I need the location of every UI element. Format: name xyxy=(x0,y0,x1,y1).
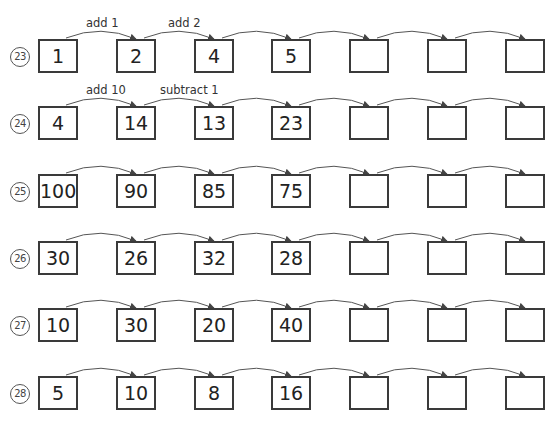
arrow-icon xyxy=(222,166,291,174)
answer-box[interactable] xyxy=(427,241,467,275)
answer-box[interactable] xyxy=(427,39,467,73)
arrow-icon xyxy=(222,368,291,376)
given-number-box: 23 xyxy=(271,106,311,140)
answer-box[interactable] xyxy=(427,174,467,208)
given-number-box: 20 xyxy=(194,308,234,342)
arrow-icon xyxy=(377,368,447,376)
question-number: 24 xyxy=(10,114,30,134)
answer-box[interactable] xyxy=(505,241,545,275)
arrow-icon xyxy=(222,98,291,106)
given-number-box: 32 xyxy=(194,241,234,275)
given-number-box: 75 xyxy=(271,174,311,208)
arrow-icon xyxy=(66,98,136,106)
arrow-icon xyxy=(299,300,369,308)
given-number-box: 90 xyxy=(116,174,156,208)
arrow-icon xyxy=(66,233,136,241)
step-label: add 10 xyxy=(86,83,126,97)
arrow-icon xyxy=(144,368,214,376)
answer-box[interactable] xyxy=(505,39,545,73)
step-label: add 1 xyxy=(86,16,119,30)
question-number: 23 xyxy=(10,47,30,67)
given-number-box: 8 xyxy=(194,376,234,410)
arrow-icon xyxy=(144,300,214,308)
arrow-icon xyxy=(455,368,525,376)
arrow-icon xyxy=(222,31,291,39)
arrow-icon xyxy=(377,166,447,174)
arrow-icon xyxy=(66,166,136,174)
given-number-box: 16 xyxy=(271,376,311,410)
answer-box[interactable] xyxy=(349,376,389,410)
given-number-box: 85 xyxy=(194,174,234,208)
answer-box[interactable] xyxy=(427,106,467,140)
arrow-icon xyxy=(144,98,214,106)
answer-box[interactable] xyxy=(505,308,545,342)
arrow-icon xyxy=(455,233,525,241)
given-number-box: 2 xyxy=(116,39,156,73)
problem-row-28: 28510816 xyxy=(0,359,554,424)
given-number-box: 14 xyxy=(116,106,156,140)
arrow-icon xyxy=(377,233,447,241)
given-number-box: 4 xyxy=(194,39,234,73)
given-number-box: 26 xyxy=(116,241,156,275)
answer-box[interactable] xyxy=(505,376,545,410)
given-number-box: 28 xyxy=(271,241,311,275)
answer-box[interactable] xyxy=(427,308,467,342)
given-number-box: 10 xyxy=(38,308,78,342)
answer-box[interactable] xyxy=(349,106,389,140)
given-number-box: 4 xyxy=(38,106,78,140)
problem-row-26: 2630263228 xyxy=(0,224,554,291)
answer-box[interactable] xyxy=(349,174,389,208)
given-number-box: 5 xyxy=(271,39,311,73)
question-number: 27 xyxy=(10,316,30,336)
arrow-icon xyxy=(299,166,369,174)
answer-box[interactable] xyxy=(505,174,545,208)
arrow-icon xyxy=(455,98,525,106)
answer-box[interactable] xyxy=(505,106,545,140)
arrow-icon xyxy=(144,166,214,174)
answer-box[interactable] xyxy=(349,39,389,73)
arrow-icon xyxy=(377,300,447,308)
given-number-box: 40 xyxy=(271,308,311,342)
arrow-icon xyxy=(66,368,136,376)
arrow-icon xyxy=(222,233,291,241)
arrow-icon xyxy=(455,166,525,174)
arrow-icon xyxy=(144,233,214,241)
step-label: add 2 xyxy=(168,16,201,30)
arrow-icon xyxy=(377,31,447,39)
answer-box[interactable] xyxy=(427,376,467,410)
answer-box[interactable] xyxy=(349,308,389,342)
arrow-icon xyxy=(377,98,447,106)
arrow-icon xyxy=(222,300,291,308)
problem-row-25: 25100908575 xyxy=(0,157,554,224)
arrow-icon xyxy=(144,31,214,39)
question-number: 26 xyxy=(10,249,30,269)
arrow-icon xyxy=(455,31,525,39)
arrow-icon xyxy=(66,300,136,308)
given-number-box: 30 xyxy=(116,308,156,342)
given-number-box: 100 xyxy=(38,174,78,208)
answer-box[interactable] xyxy=(349,241,389,275)
given-number-box: 5 xyxy=(38,376,78,410)
arrow-icon xyxy=(455,300,525,308)
question-number: 25 xyxy=(10,182,30,202)
arrow-icon xyxy=(299,368,369,376)
given-number-box: 30 xyxy=(38,241,78,275)
step-label: subtract 1 xyxy=(160,83,219,97)
given-number-box: 13 xyxy=(194,106,234,140)
arrow-icon xyxy=(299,233,369,241)
problem-row-24: add 10subtract 1244141323 xyxy=(0,89,554,156)
arrow-icon xyxy=(299,31,369,39)
problem-row-23: add 1add 2231245 xyxy=(0,22,554,89)
question-number: 28 xyxy=(10,384,30,404)
problem-row-27: 2710302040 xyxy=(0,291,554,358)
arrow-icon xyxy=(299,98,369,106)
given-number-box: 10 xyxy=(116,376,156,410)
given-number-box: 1 xyxy=(38,39,78,73)
arrow-icon xyxy=(66,31,136,39)
